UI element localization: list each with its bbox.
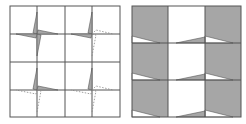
pinwheel-top-left (16, 12, 58, 56)
grid-lines (10, 6, 120, 117)
grey-wedges (176, 37, 205, 117)
right-shaded-grid-panel (123, 0, 246, 124)
shaded-strip-figure (123, 0, 246, 124)
pinwheel-grid-figure (0, 0, 123, 124)
left-pinwheel-grid-panel (0, 0, 123, 124)
shaded-columns (132, 6, 241, 117)
